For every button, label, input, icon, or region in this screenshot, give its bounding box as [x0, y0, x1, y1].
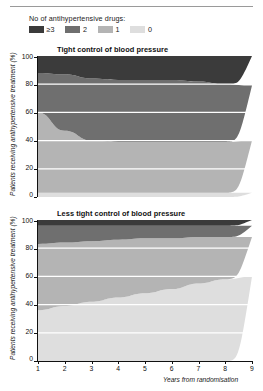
figure-container: No of antihypertensive drugs: ≥3 2 1 0 T…: [0, 0, 263, 391]
plot-area-less-tight: [38, 220, 252, 361]
y-tick-label-0-less: 0: [14, 355, 33, 362]
x-tick-mark-7: [199, 361, 200, 364]
x-tick-label-4: 4: [111, 365, 125, 372]
x-tick-mark-8: [225, 361, 226, 364]
y-tick-label-20-less: 20: [14, 328, 33, 335]
x-tick-label-8: 8: [218, 365, 232, 372]
x-tick-label-7: 7: [192, 365, 206, 372]
y-tick-label-80-less: 80: [14, 244, 33, 251]
x-tick-mark-3: [92, 361, 93, 364]
y-tick-label-100-less: 100: [14, 217, 33, 224]
x-tick-label-6: 6: [165, 365, 179, 372]
x-tick-label-1: 1: [31, 365, 45, 372]
y-tick-label-40-less: 40: [14, 300, 33, 307]
panel-title-less-tight: Less tight control of blood pressure: [57, 209, 185, 218]
x-tick-mark-6: [172, 361, 173, 364]
x-tick-mark-1: [38, 361, 39, 364]
x-tick-label-3: 3: [85, 365, 99, 372]
x-tick-label-2: 2: [58, 365, 72, 372]
x-tick-label-5: 5: [138, 365, 152, 372]
stacked-area-svg-less-tight: [38, 220, 252, 361]
x-tick-mark-2: [65, 361, 66, 364]
area-band-ge3: [38, 220, 252, 226]
panel-less-tight-control: Less tight control of blood pressure Pat…: [0, 0, 263, 391]
x-tick-mark-5: [145, 361, 146, 364]
x-tick-mark-4: [118, 361, 119, 364]
y-tick-label-60-less: 60: [14, 272, 33, 279]
y-axis-label-less-tight: Patients receiving antihypertensive trea…: [9, 216, 16, 360]
x-axis-label: Years from randomisation: [163, 376, 238, 383]
x-tick-label-9: 9: [245, 365, 259, 372]
x-tick-mark-9: [252, 361, 253, 364]
